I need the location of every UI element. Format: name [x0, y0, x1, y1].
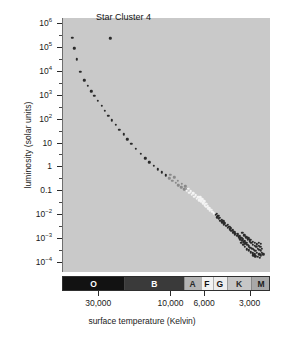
star-data-point — [130, 143, 132, 145]
star-data-point — [79, 71, 81, 73]
star-data-point — [71, 37, 73, 39]
star-data-point — [258, 257, 260, 259]
y-tick-label: 10−4 — [14, 257, 52, 267]
star-data-point — [126, 138, 128, 140]
x-axis-tick-marks — [62, 291, 270, 296]
spectral-class-label: A — [189, 279, 195, 289]
y-tick-label: 10−2 — [14, 209, 52, 219]
spectral-class-divider — [213, 277, 214, 290]
star-data-point — [177, 179, 179, 181]
chart-title: Star Cluster 4 — [96, 12, 151, 22]
x-tick-label: 3,000 — [239, 298, 260, 308]
spectral-class-a: A — [184, 277, 201, 290]
star-data-point — [107, 115, 109, 117]
star-data-point — [148, 161, 150, 163]
star-data-point — [73, 47, 75, 49]
y-tick-label: 10 — [14, 138, 52, 148]
star-data-point — [109, 37, 111, 39]
spectral-class-g: G — [213, 277, 227, 290]
star-data-point — [157, 168, 159, 170]
star-data-point — [260, 243, 262, 245]
y-tick-label: 106 — [14, 18, 52, 28]
star-data-point — [173, 176, 175, 178]
x-axis-title: surface temperature (Kelvin) — [0, 316, 284, 326]
y-axis-tick-labels: 1061051041031021010.110−210−310−4 — [14, 18, 52, 263]
star-data-point — [75, 58, 77, 60]
y-tick-label: 105 — [14, 42, 52, 52]
star-data-point — [87, 85, 89, 87]
x-tick-label: 30,000 — [85, 298, 111, 308]
star-data-point — [153, 165, 155, 167]
star-data-point — [168, 177, 170, 179]
x-tick-mark — [250, 291, 251, 296]
plot-area — [62, 18, 270, 272]
spectral-class-divider — [227, 277, 228, 290]
x-tick-label: 10,000 — [157, 298, 183, 308]
star-data-point — [100, 104, 102, 106]
star-data-point — [118, 129, 120, 131]
y-tick-label: 1 — [14, 161, 52, 171]
spectral-class-divider — [124, 277, 125, 290]
star-data-point — [180, 182, 182, 184]
spectral-class-label: K — [236, 279, 242, 289]
star-data-point — [161, 171, 163, 173]
y-tick-label: 104 — [14, 66, 52, 76]
x-tick-mark — [170, 291, 171, 296]
star-data-point — [139, 153, 141, 155]
spectral-class-label: O — [90, 279, 97, 289]
star-data-point — [144, 157, 146, 159]
x-axis-tick-labels: 30,00010,0006,0003,000 — [0, 298, 284, 312]
y-tick-label: 102 — [14, 114, 52, 124]
star-data-point — [104, 110, 106, 112]
spectral-class-divider — [251, 277, 252, 290]
star-data-point — [90, 90, 92, 92]
y-tick-label: 0.1 — [14, 185, 52, 195]
star-data-point — [171, 180, 173, 182]
x-tick-mark — [204, 291, 205, 296]
spectral-class-bar: OBAFGKM — [62, 276, 270, 291]
spectral-class-b: B — [124, 277, 184, 290]
star-data-point — [262, 253, 264, 255]
star-data-point — [97, 99, 99, 101]
spectral-class-divider — [184, 277, 185, 290]
spectral-class-label: G — [217, 279, 224, 289]
spectral-class-k: K — [227, 277, 251, 290]
star-data-point — [83, 79, 85, 81]
star-data-point — [122, 133, 124, 135]
y-tick-label: 103 — [14, 90, 52, 100]
y-tick-label: 10−3 — [14, 233, 52, 243]
hr-diagram-figure: luminosity (solar units) 106105104103102… — [0, 0, 284, 341]
star-data-point — [114, 124, 116, 126]
star-data-point — [93, 95, 95, 97]
spectral-class-label: M — [257, 279, 264, 289]
x-tick-mark — [98, 291, 99, 296]
star-data-point — [165, 174, 167, 176]
star-data-point — [169, 174, 171, 176]
x-tick-label: 6,000 — [193, 298, 214, 308]
spectral-class-divider — [201, 277, 202, 290]
spectral-class-label: B — [151, 279, 157, 289]
star-data-point — [111, 119, 113, 121]
star-data-point — [135, 148, 137, 150]
spectral-class-o: O — [63, 277, 124, 290]
spectral-class-m: M — [251, 277, 270, 290]
spectral-class-label: F — [204, 279, 209, 289]
spectral-class-f: F — [201, 277, 213, 290]
